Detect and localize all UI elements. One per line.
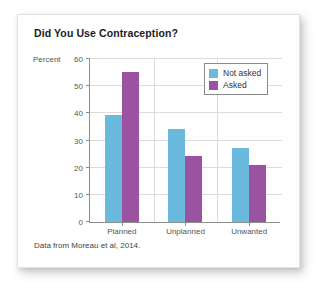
y-tick-label: 40 bbox=[74, 109, 83, 118]
x-tick-label: Unwanted bbox=[217, 227, 281, 236]
legend-swatch-icon bbox=[209, 81, 218, 90]
legend-label: Not asked bbox=[223, 68, 261, 78]
x-tick-mark bbox=[249, 222, 250, 226]
legend-item: Not asked bbox=[209, 67, 261, 79]
chart-legend: Not askedAsked bbox=[204, 63, 268, 95]
bar bbox=[249, 165, 266, 222]
y-tick-label: 50 bbox=[74, 82, 83, 91]
x-tick-label: Planned bbox=[90, 227, 154, 236]
x-tick-label: Unplanned bbox=[154, 227, 218, 236]
source-note: Data from Moreau et al, 2014. bbox=[34, 241, 140, 250]
figure-card: Did You Use Contraception? Percent 01020… bbox=[17, 14, 300, 268]
x-tick-mark bbox=[122, 222, 123, 226]
y-tick-label: 10 bbox=[74, 190, 83, 199]
x-tick-mark bbox=[185, 222, 186, 226]
bar bbox=[122, 72, 139, 222]
y-axis-label: Percent bbox=[33, 55, 61, 64]
y-tick-label: 20 bbox=[74, 163, 83, 172]
legend-label: Asked bbox=[223, 80, 247, 90]
bar-group: Planned bbox=[90, 59, 154, 222]
y-tick-label: 0 bbox=[79, 218, 83, 227]
page-title: Did You Use Contraception? bbox=[34, 27, 178, 39]
legend-item: Asked bbox=[209, 79, 261, 91]
bar bbox=[185, 156, 202, 222]
bar bbox=[168, 129, 185, 222]
figure-page: Did You Use Contraception? Percent 01020… bbox=[0, 0, 319, 282]
y-tick-label: 30 bbox=[74, 136, 83, 145]
legend-swatch-icon bbox=[209, 69, 218, 78]
bar bbox=[232, 148, 249, 222]
bar bbox=[105, 115, 122, 222]
y-tick-label: 60 bbox=[74, 55, 83, 64]
